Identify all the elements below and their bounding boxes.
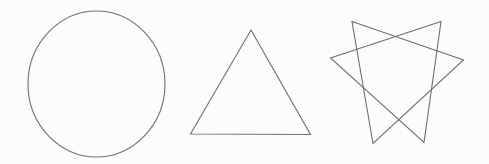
drawing-canvas: [0, 0, 489, 164]
shapes-svg: [0, 0, 489, 164]
canvas-background: [0, 0, 489, 164]
